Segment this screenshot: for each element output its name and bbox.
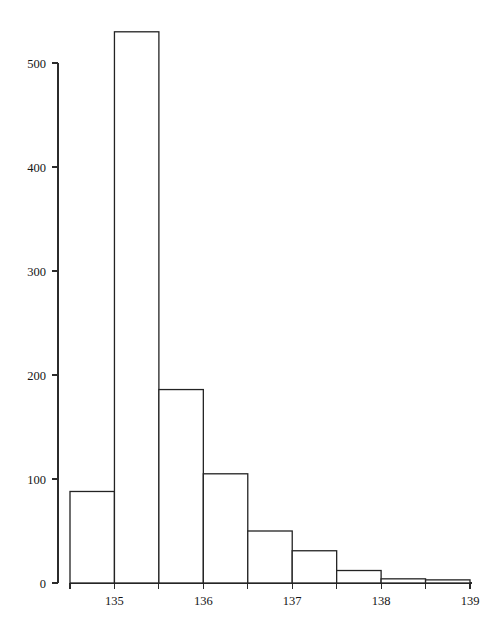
x-tick-label-138: 138 [372, 594, 391, 608]
y-tick-label-300: 300 [27, 265, 46, 279]
histogram-bar [114, 32, 158, 583]
x-tick-label-136: 136 [194, 594, 213, 608]
histogram-bar [203, 474, 247, 583]
y-tick-label-100: 100 [27, 473, 46, 487]
histogram-bar [70, 491, 114, 583]
y-tick-label-500: 500 [27, 57, 46, 71]
y-tick-label-0: 0 [40, 577, 46, 591]
x-tick-label-139: 139 [461, 594, 480, 608]
histogram-bar [248, 531, 292, 583]
x-tick-label-135: 135 [105, 594, 124, 608]
histogram-plot: 0100200300400500135136137138139 [0, 0, 492, 618]
histogram-bar [426, 580, 470, 583]
histogram-bar [159, 390, 203, 583]
histogram-bar [337, 571, 381, 583]
y-tick-label-200: 200 [27, 369, 46, 383]
x-tick-label-137: 137 [283, 594, 302, 608]
histogram-bar [292, 551, 336, 583]
y-tick-label-400: 400 [27, 161, 46, 175]
histogram-figure: 0100200300400500135136137138139 [0, 0, 492, 618]
histogram-bar [381, 579, 425, 583]
